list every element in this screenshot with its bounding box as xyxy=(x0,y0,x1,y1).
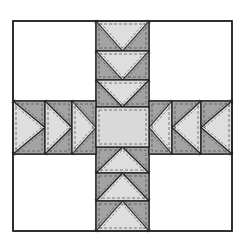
corner-square-bottom-right xyxy=(149,154,232,231)
flying-geese-unit-top-3 xyxy=(94,78,150,108)
quilt-block-diagram xyxy=(0,0,245,248)
quilt-block-svg xyxy=(0,0,245,248)
corner-square-top-right xyxy=(149,21,232,101)
flying-geese-unit-left-1 xyxy=(12,99,47,155)
flying-geese-unit-left-2 xyxy=(43,99,73,155)
corner-square-top-left xyxy=(13,21,96,101)
flying-geese-unit-bottom-2 xyxy=(94,171,150,202)
flying-geese-unit-right-2 xyxy=(171,99,203,155)
flying-geese-unit-right-3 xyxy=(200,99,234,155)
flying-geese-unit-bottom-3 xyxy=(94,200,150,233)
flying-geese-unit-left-3 xyxy=(70,100,97,156)
flying-geese-unit-right-1 xyxy=(147,100,173,156)
center-square xyxy=(96,107,149,147)
center-square-fill xyxy=(96,107,149,147)
flying-geese-unit-top-1 xyxy=(94,20,150,53)
flying-geese-unit-top-2 xyxy=(94,50,150,82)
flying-geese-unit-bottom-1 xyxy=(94,145,150,174)
corner-square-bottom-left xyxy=(13,154,96,231)
